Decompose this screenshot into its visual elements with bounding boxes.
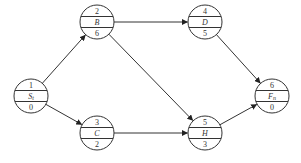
node-duration: 3 [203, 140, 207, 149]
node-1: 1St0 [14, 79, 48, 113]
node-duration: 6 [95, 29, 99, 38]
node-number: 1 [29, 81, 33, 90]
edge-1-to-2 [42, 35, 85, 83]
node-activity-name: B [95, 18, 100, 27]
node-number: 2 [95, 7, 99, 16]
edges [42, 22, 260, 133]
node-duration: 2 [95, 140, 99, 149]
node-activity-name: C [94, 129, 100, 138]
node-5: 5H3 [188, 116, 222, 150]
node-number: 4 [203, 7, 207, 16]
node-3: 3C2 [80, 116, 114, 150]
node-duration: 5 [203, 29, 207, 38]
node-number: 5 [203, 118, 207, 127]
network-diagram: 1St02B63C24D55H36Fn0 [0, 0, 301, 163]
node-duration: 0 [29, 103, 33, 112]
edge-4-to-6 [216, 35, 260, 83]
edge-2-to-5 [109, 34, 193, 120]
edge-5-to-6 [220, 104, 257, 124]
edge-1-to-3 [46, 104, 82, 124]
node-number: 6 [270, 81, 274, 90]
node-duration: 0 [270, 103, 274, 112]
node-6: 6Fn0 [255, 79, 289, 113]
node-number: 3 [95, 118, 99, 127]
node-2: 2B6 [80, 5, 114, 39]
node-4: 4D5 [188, 5, 222, 39]
node-activity-name: D [201, 18, 208, 27]
